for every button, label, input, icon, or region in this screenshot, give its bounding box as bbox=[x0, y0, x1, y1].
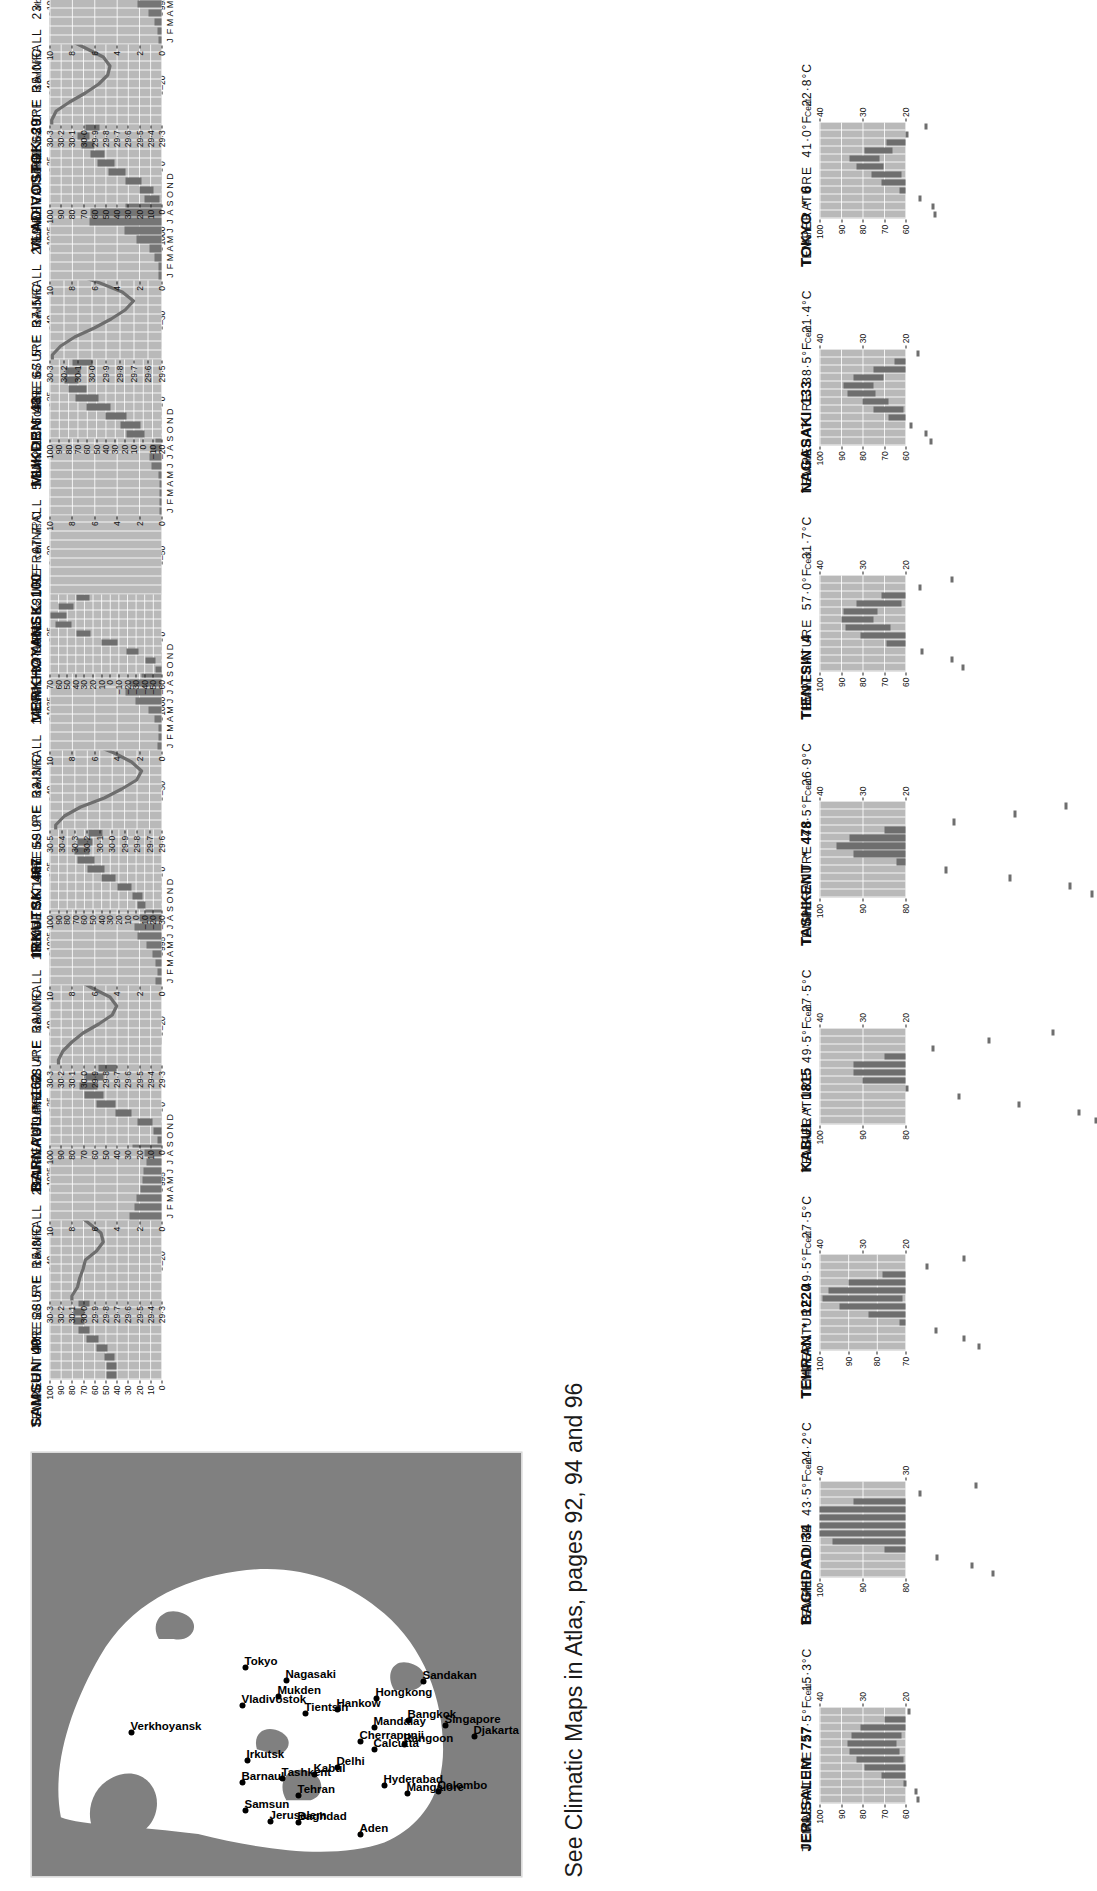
tick-mark bbox=[118, 675, 119, 678]
axis-tick: 90 bbox=[857, 1583, 867, 1592]
tick-mark bbox=[119, 360, 120, 363]
axis-unit-left: Ins. bbox=[33, 365, 42, 379]
temperature-bar bbox=[117, 883, 131, 890]
tick-mark bbox=[905, 1804, 906, 1807]
tick-mark bbox=[94, 986, 95, 989]
tick-mark bbox=[876, 1351, 877, 1354]
axis-tick: 0 bbox=[156, 521, 166, 526]
axis-tick: 30·3 bbox=[44, 1306, 54, 1323]
axis-unit-left: Ins. bbox=[33, 130, 42, 144]
axis-tick: 20 bbox=[119, 444, 129, 453]
map-label: Nagasaki bbox=[285, 1667, 336, 1679]
axis-tick: 29·7 bbox=[111, 1306, 121, 1323]
station-charts: TEMPERATURE 67·5°F 37·5°C100908070605040… bbox=[45, 257, 197, 486]
tick-mark bbox=[49, 439, 50, 442]
axis-tick: 60 bbox=[900, 1809, 910, 1818]
tick-mark bbox=[116, 45, 117, 48]
map-label: Barnaul bbox=[241, 1769, 284, 1781]
chart-rain: RAINFALL 14·9in. 37·9cm.JFMAMJJASOND1086… bbox=[45, 728, 197, 798]
chart-press: PRESSURE30·330·230·130·029·929·829·729·6… bbox=[45, 337, 197, 407]
tick-mark bbox=[135, 910, 136, 913]
tick-mark bbox=[150, 1380, 151, 1383]
tick-mark bbox=[819, 571, 820, 574]
axis-tick: 29·9 bbox=[89, 130, 99, 147]
temperature-bar bbox=[126, 648, 138, 655]
tick-mark bbox=[60, 1380, 61, 1383]
axis-tick: 29·6 bbox=[142, 365, 152, 382]
temperature-bar bbox=[970, 1562, 973, 1568]
axis-tick: 0 bbox=[156, 286, 166, 291]
axis-tick: 80 bbox=[900, 904, 910, 913]
tick-mark bbox=[862, 219, 863, 222]
station-panel-verkhoyansk: VERKHOYANSK100TEMPERATURE 121·8°F 67·7°C… bbox=[26, 492, 197, 721]
plot-host: 100908070403020Fahr.Cent. bbox=[819, 1254, 905, 1350]
axis-tick: 90 bbox=[836, 677, 846, 686]
temperature-bar bbox=[944, 866, 947, 872]
month-label: F bbox=[164, 732, 174, 741]
tick-mark bbox=[152, 675, 153, 678]
axis-unit-left: Fahr. bbox=[33, 680, 42, 699]
temperature-bar bbox=[106, 1371, 116, 1378]
temperature-bar bbox=[881, 592, 905, 598]
tick-mark bbox=[139, 516, 140, 519]
tick-mark bbox=[83, 204, 84, 207]
month-label: F bbox=[164, 1202, 174, 1211]
axis-tick: –10 bbox=[147, 444, 157, 458]
axis-unit-left: Ins. bbox=[33, 991, 42, 1005]
tick-mark bbox=[139, 125, 140, 128]
axis-tick: 70 bbox=[900, 1356, 910, 1365]
axis-tick: 40 bbox=[111, 1385, 121, 1394]
tick-mark bbox=[161, 675, 162, 678]
axis-unit-left: Ins. bbox=[33, 1070, 42, 1084]
axis-tick: 8 bbox=[66, 50, 76, 55]
plot-host: 10090807060403020Fahr.Cent. bbox=[819, 1707, 905, 1803]
axis-tick: 0 bbox=[156, 756, 166, 761]
axis-tick: 6 bbox=[89, 1226, 99, 1231]
temperature-bar bbox=[924, 123, 927, 129]
chart-title-text: TEMPERATURE bbox=[799, 845, 813, 946]
map-label: Hongkong bbox=[375, 1685, 432, 1697]
month-label: J bbox=[164, 741, 174, 750]
axis-tick: –20 bbox=[156, 444, 166, 458]
temperature-bar bbox=[961, 664, 964, 670]
tick-mark bbox=[905, 1578, 906, 1581]
tick-mark bbox=[86, 439, 87, 442]
axis-tick: 90 bbox=[55, 1385, 65, 1394]
axis-unit-left: Fahr. bbox=[803, 1356, 812, 1375]
tick-mark bbox=[139, 986, 140, 989]
map-label: Djakarta bbox=[473, 1723, 518, 1735]
tick-mark bbox=[92, 675, 93, 678]
axis-tick: 50 bbox=[100, 1385, 110, 1394]
tick-mark bbox=[161, 910, 162, 913]
axis-unit-left: Ins. bbox=[33, 286, 42, 300]
tick-mark bbox=[49, 45, 50, 48]
axis-tick: 100 bbox=[814, 1583, 824, 1597]
station-panel-vladivostok: VLADIVOSTOK29TEMPERATURE 63·0°F 35·0°C10… bbox=[26, 22, 197, 251]
axis-tick: 2 bbox=[134, 991, 144, 996]
axis-unit-left: Fahr. bbox=[803, 677, 812, 696]
tick-mark bbox=[884, 1804, 885, 1807]
tick-mark bbox=[75, 910, 76, 913]
rainfall-bar bbox=[159, 507, 161, 514]
locator-map[interactable]: VerkhoyanskIrkutskVladivostokMukdenTokyo… bbox=[30, 1451, 522, 1877]
tick-mark bbox=[105, 360, 106, 363]
tick-mark bbox=[105, 1065, 106, 1068]
axis-tick: 90 bbox=[53, 444, 63, 453]
axis-unit-left: Ins. bbox=[33, 50, 42, 64]
tick-mark bbox=[884, 446, 885, 449]
axis-tick: 40 bbox=[111, 209, 121, 218]
station-panel-mukden: MUKDEN43TEMPERATURE 67·5°F 37·5°C1009080… bbox=[26, 257, 197, 486]
tick-mark bbox=[147, 360, 148, 363]
axis-tick: 29·4 bbox=[145, 130, 155, 147]
tick-mark bbox=[66, 675, 67, 678]
month-label: M bbox=[164, 1193, 174, 1202]
axis-tick: 4 bbox=[111, 521, 121, 526]
axis-tick: 80 bbox=[63, 444, 73, 453]
tick-mark bbox=[94, 281, 95, 284]
temperature-bar bbox=[126, 430, 144, 437]
tick-mark bbox=[77, 439, 78, 442]
rainfall-bar bbox=[157, 968, 161, 975]
rainfall-bar bbox=[155, 977, 161, 984]
temperature-bar bbox=[899, 187, 905, 193]
